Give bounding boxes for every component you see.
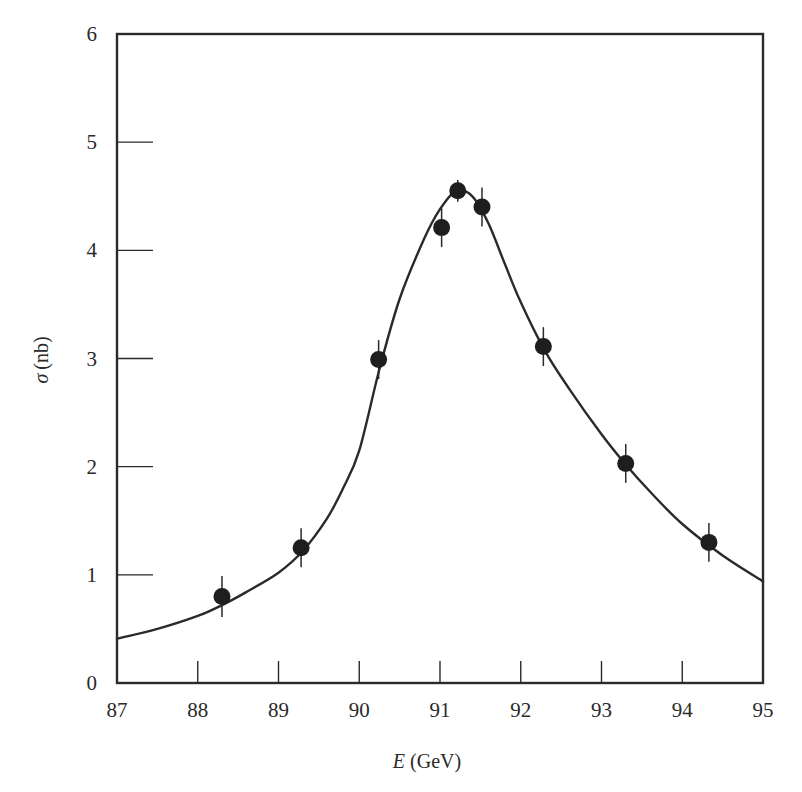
data-point bbox=[293, 528, 310, 567]
data-marker bbox=[449, 182, 466, 199]
y-tick-label: 1 bbox=[87, 563, 98, 587]
x-tick-label: 88 bbox=[187, 698, 208, 722]
x-tick-label: 90 bbox=[349, 698, 370, 722]
y-tick-label: 4 bbox=[87, 238, 98, 262]
data-points bbox=[213, 180, 717, 617]
data-point bbox=[700, 523, 717, 562]
data-marker bbox=[433, 219, 450, 236]
data-point bbox=[617, 444, 634, 483]
fit-curve-line bbox=[117, 190, 763, 639]
y-axis-title: σ(nb) bbox=[30, 336, 53, 383]
data-point bbox=[449, 180, 466, 202]
data-marker bbox=[293, 539, 310, 556]
resonance-chart: 0123456 878889909192939495 E(GeV) σ(nb) bbox=[0, 0, 802, 792]
data-point bbox=[213, 576, 230, 617]
x-tick-label: 93 bbox=[591, 698, 612, 722]
data-marker bbox=[535, 338, 552, 355]
x-axis-tick-labels: 878889909192939495 bbox=[107, 698, 774, 722]
x-tick-label: 92 bbox=[510, 698, 531, 722]
x-tick-label: 87 bbox=[107, 698, 128, 722]
y-axis-ticks bbox=[117, 142, 153, 575]
x-axis-title: E(GeV) bbox=[392, 750, 461, 773]
y-tick-label: 5 bbox=[87, 130, 98, 154]
plot-frame bbox=[117, 34, 763, 683]
x-tick-label: 89 bbox=[268, 698, 289, 722]
x-axis-ticks bbox=[198, 661, 683, 683]
x-tick-label: 91 bbox=[430, 698, 451, 722]
x-tick-label: 95 bbox=[753, 698, 774, 722]
y-tick-label: 3 bbox=[87, 347, 98, 371]
y-axis-tick-labels: 0123456 bbox=[87, 22, 98, 695]
y-tick-label: 0 bbox=[87, 671, 98, 695]
data-marker bbox=[213, 588, 230, 605]
x-tick-label: 94 bbox=[672, 698, 694, 722]
y-tick-label: 2 bbox=[87, 455, 98, 479]
y-tick-label: 6 bbox=[87, 22, 98, 46]
data-marker bbox=[617, 455, 634, 472]
data-marker bbox=[700, 534, 717, 551]
data-marker bbox=[473, 199, 490, 216]
data-marker bbox=[370, 351, 387, 368]
